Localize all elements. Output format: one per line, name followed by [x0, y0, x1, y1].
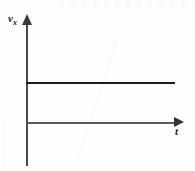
x-axis-line: [26, 122, 178, 124]
scan-artifact-left-edge: [3, 120, 4, 168]
scan-artifact-top: [60, 0, 195, 9]
y-axis-line: [26, 22, 28, 166]
x-axis-label: t: [175, 126, 178, 137]
velocity-time-figure: vx t: [0, 0, 195, 171]
y-axis-label-subscript: x: [13, 18, 17, 27]
y-axis-label: vx: [8, 13, 17, 27]
scan-artifact-diagonal: [77, 28, 121, 161]
arrow-up-icon: [22, 14, 32, 25]
constant-velocity-line: [26, 82, 175, 84]
